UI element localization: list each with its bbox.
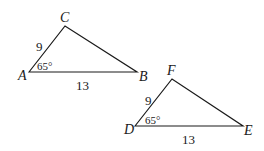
vertex-label-f: F <box>166 63 176 78</box>
congruent-triangles-diagram: A C B 9 13 65° D F E 9 13 65° <box>0 0 264 151</box>
vertex-label-b: B <box>139 69 148 84</box>
vertex-label-d: D <box>123 122 134 137</box>
side-length-ac: 9 <box>36 39 43 54</box>
angle-d-label: 65° <box>145 114 160 126</box>
vertex-label-e: E <box>243 123 253 138</box>
side-length-df: 9 <box>145 93 152 108</box>
side-length-ab: 13 <box>76 78 89 93</box>
vertex-label-c: C <box>60 10 70 25</box>
side-length-de: 13 <box>182 132 195 147</box>
vertex-label-a: A <box>17 68 27 83</box>
angle-a-label: 65° <box>37 60 52 72</box>
